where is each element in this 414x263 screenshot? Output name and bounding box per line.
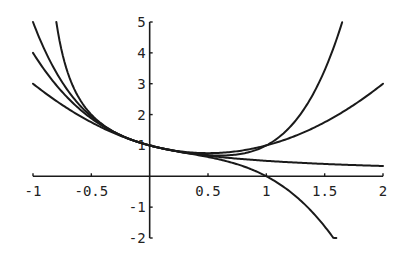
- y-tick-label: 3: [137, 76, 145, 92]
- x-tick-label: 0.5: [195, 183, 220, 199]
- y-tick-label: 1: [137, 137, 145, 153]
- y-tick-label: -1: [129, 199, 146, 215]
- y-tick-label: 2: [137, 107, 145, 123]
- x-tick-label: 1: [262, 183, 270, 199]
- x-tick-label: 2: [379, 183, 387, 199]
- curves: [33, 22, 383, 238]
- curve-cubic: [33, 53, 336, 238]
- x-tick-label: 1.5: [312, 183, 337, 199]
- x-tick-label: -0.5: [74, 183, 108, 199]
- curve-quadratic: [33, 84, 383, 153]
- x-tick-label: -1: [25, 183, 42, 199]
- y-tick-label: 5: [137, 14, 145, 30]
- y-tick-label: -2: [129, 230, 146, 246]
- y-tick-label: 4: [137, 45, 145, 61]
- chart-plot: -1-0.50.511.52-2-112345: [0, 0, 414, 263]
